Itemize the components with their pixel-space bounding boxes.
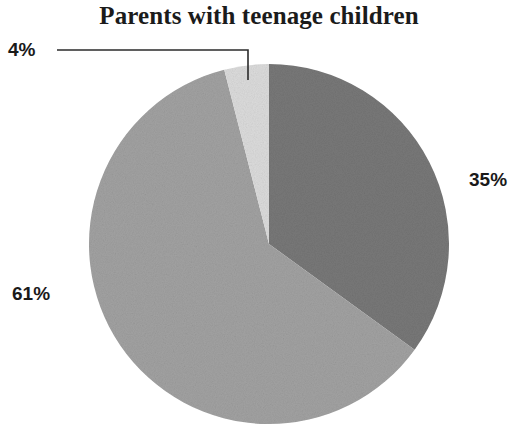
pie-chart-figure: Parents with teenage children 4% 6: [0, 0, 518, 425]
slice-label-35-percent: 35%: [469, 170, 507, 190]
slice-label-61-percent: 61%: [12, 284, 50, 304]
pie-slices-group: [89, 64, 449, 424]
pie-chart-graphic: [0, 0, 518, 425]
slice-label-4-percent: 4%: [8, 40, 35, 60]
